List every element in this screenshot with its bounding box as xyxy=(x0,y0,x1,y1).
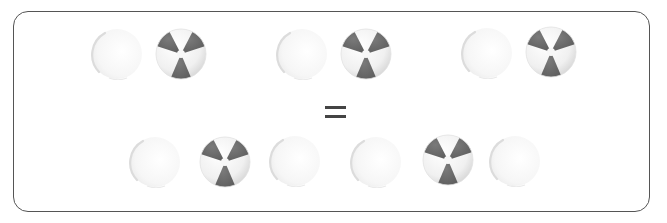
beach-ball-icon xyxy=(199,136,251,188)
beach-ball-icon xyxy=(340,28,392,80)
ghost-ball-icon xyxy=(269,135,321,187)
ghost-ball-icon xyxy=(276,28,328,80)
equals-bar-bottom xyxy=(325,115,346,118)
beach-ball-icon xyxy=(525,26,577,78)
equals-bar-top xyxy=(325,106,346,109)
ghost-ball-icon xyxy=(489,135,541,187)
equals-sign: = xyxy=(325,106,346,119)
ghost-ball-icon xyxy=(461,27,513,79)
ghost-ball-icon xyxy=(129,136,181,188)
beach-ball-icon xyxy=(422,134,474,186)
beach-ball-icon xyxy=(155,28,207,80)
ghost-ball-icon xyxy=(91,28,143,80)
ghost-ball-icon xyxy=(350,136,402,188)
